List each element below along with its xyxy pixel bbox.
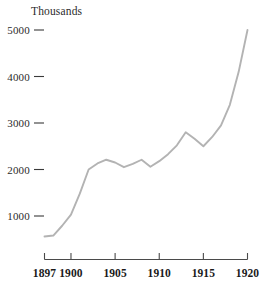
y-tick-label: 5000	[7, 24, 30, 36]
y-tick-label: 1000	[7, 210, 30, 222]
y-axis-ticks: 10002000300040005000	[7, 24, 44, 222]
x-tick-label: 1915	[192, 267, 216, 279]
chart-title-group: Thousands	[31, 5, 83, 17]
data-series-group	[45, 30, 248, 236]
chart-canvas: Thousands 10002000300040005000 189719001…	[0, 0, 275, 291]
x-tick-label: 1920	[236, 267, 260, 279]
x-tick-label: 1900	[59, 267, 83, 279]
y-tick-label: 2000	[7, 164, 30, 176]
data-line-thousands	[45, 30, 248, 236]
y-tick-label: 4000	[7, 71, 30, 83]
y-tick-label: 3000	[7, 117, 30, 129]
x-tick-label: 1905	[103, 267, 127, 279]
x-tick-label: 1910	[148, 267, 172, 279]
y-axis-unit-title: Thousands	[31, 5, 83, 17]
x-axis-ticks: 189719001905191019151920	[33, 253, 260, 279]
x-tick-label: 1897	[33, 267, 57, 279]
line-chart-figure: Thousands 10002000300040005000 189719001…	[0, 0, 275, 291]
